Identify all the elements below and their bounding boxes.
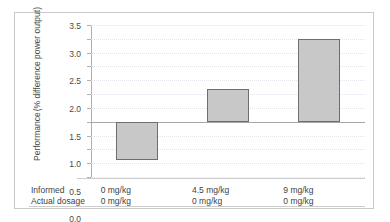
y-axis-tick: 2.5	[87, 53, 91, 54]
y-axis-tick: 1.5	[87, 80, 91, 81]
y-axis-tick: 3.0	[87, 39, 91, 40]
y-axis-tick-label: 1.5	[69, 132, 81, 142]
y-axis-tick: −0.5	[87, 136, 91, 137]
y-axis-tick: 1.0	[87, 94, 91, 95]
bar	[207, 89, 249, 122]
y-axis-tick-label: 2.0	[69, 104, 81, 114]
bar	[116, 122, 158, 161]
table-cell: 4.5 mg/kg	[192, 185, 229, 195]
plot-area: 3.53.02.52.01.51.00.50.0−0.5−1.0−1.5−2.0	[91, 25, 365, 177]
table-cell: 9 mg/kg	[283, 185, 313, 195]
y-axis-line	[91, 25, 92, 177]
y-axis-tick: 2.0	[87, 66, 91, 67]
y-axis-title-line-2: (% difference power output)	[32, 7, 43, 111]
y-axis-tick-label: 1.0	[69, 159, 81, 169]
y-axis-tick-label: 2.5	[69, 76, 81, 86]
table-cell: 0 mg/kg	[101, 185, 131, 195]
y-axis-tick-label: 3.0	[69, 49, 81, 59]
plot-inner: 3.53.02.52.01.51.00.50.0−0.5−1.0−1.5−2.0	[91, 25, 365, 177]
grid-line	[91, 25, 365, 26]
axis-bottom-rule	[77, 178, 365, 179]
table-cell: 0 mg/kg	[101, 196, 131, 206]
figure-panel: Performance (% difference power output) …	[14, 12, 374, 209]
table-bottom-rule	[29, 206, 365, 207]
y-axis-tick: 0.5	[87, 108, 91, 109]
y-axis-tick: 3.5	[87, 25, 91, 26]
y-axis-tick-label: 3.5	[69, 21, 81, 31]
y-axis-tick-label: 0.0	[69, 214, 81, 219]
grid-line	[91, 163, 365, 164]
table-row-label: Actual dosage	[31, 196, 85, 206]
y-axis-tick: −1.0	[87, 149, 91, 150]
table-cell: 0 mg/kg	[283, 196, 313, 206]
y-axis-title: Performance (% difference power output)	[22, 9, 52, 159]
y-axis-title-line-1: Performance	[32, 112, 43, 161]
bar	[298, 39, 340, 122]
table-cell: 0 mg/kg	[192, 196, 222, 206]
table-row-label: Informed	[31, 185, 65, 195]
y-axis-tick: −1.5	[87, 163, 91, 164]
